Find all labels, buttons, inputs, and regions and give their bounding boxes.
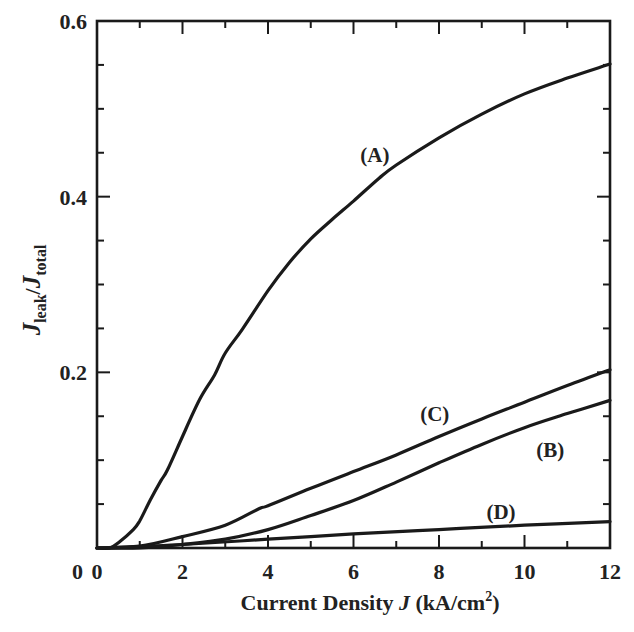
curve-label-a: (A)	[360, 143, 389, 167]
plot-border	[97, 21, 610, 548]
x-tick-label: 10	[514, 559, 536, 584]
curve-label-d: (D)	[486, 500, 515, 524]
curve-label-c: (C)	[420, 402, 449, 426]
y-tick-label: 0.2	[60, 360, 88, 385]
x-tick-label: 12	[599, 559, 621, 584]
x-axis-title-close: )	[492, 590, 499, 615]
y-axis-ticks: 00.20.40.6	[60, 9, 611, 584]
curve-label-b: (B)	[536, 438, 564, 462]
y-axis-title-sub1: leak	[32, 294, 49, 323]
line-chart: 024681012 00.20.40.6 (A)(B)(C)(D) Curren…	[0, 0, 634, 632]
x-axis-title-unit: (kA/cm	[410, 590, 485, 615]
x-tick-label: 0	[92, 559, 103, 584]
curve-a	[97, 64, 610, 548]
x-tick-label: 4	[263, 559, 274, 584]
x-tick-label: 8	[434, 559, 445, 584]
curve-labels: (A)(B)(C)(D)	[360, 143, 564, 524]
plot-frame	[97, 21, 610, 548]
y-tick-label: 0.6	[60, 9, 88, 34]
curves	[97, 64, 610, 548]
y-tick-label: 0.4	[60, 185, 88, 210]
y-axis-title-sub2: total	[32, 244, 49, 276]
x-tick-label: 2	[177, 559, 188, 584]
x-axis-title: Current Density J (kA/cm2)	[241, 589, 500, 615]
x-tick-label: 6	[348, 559, 359, 584]
x-axis-title-prefix: Current Density	[241, 590, 399, 615]
y-axis-title: Jleak/Jtotal	[18, 244, 49, 336]
x-axis-title-sup: 2	[485, 589, 492, 604]
y-tick-label: 0	[72, 559, 83, 584]
